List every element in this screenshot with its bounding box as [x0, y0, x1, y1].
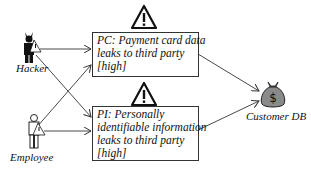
warning-icon — [130, 81, 158, 107]
warning-icon — [130, 4, 158, 30]
asset-label: Customer DB — [246, 110, 306, 122]
employee-icon — [24, 113, 50, 150]
threat-severity: [high] — [97, 60, 194, 73]
threat-line: PC: Payment card data — [97, 34, 194, 47]
hacker-icon — [20, 30, 46, 64]
edge-pc-asset — [198, 54, 259, 91]
threat-line: leaks to third party — [97, 134, 194, 147]
actor-label-hacker: Hacker — [16, 62, 48, 74]
actor-label-employee: Employee — [10, 151, 53, 163]
dollar-symbol: $ — [269, 91, 277, 105]
threat-severity: [high] — [97, 147, 194, 160]
threat-line: leaks to third party — [97, 47, 194, 60]
threat-box-pc[interactable]: PC: Payment card data leaks to third par… — [92, 32, 199, 77]
money-bag-icon: $ — [258, 80, 288, 110]
threat-box-pi[interactable]: PI: Personally identifiable information … — [92, 106, 199, 161]
threat-line: PI: Personally — [97, 108, 194, 121]
threat-line: identifiable information — [97, 121, 194, 134]
